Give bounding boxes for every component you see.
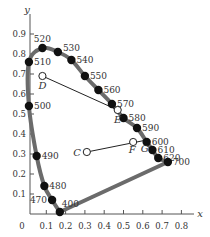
y-tick-label: 0.4 [12, 129, 26, 139]
wavelength-point [25, 58, 33, 66]
x-tick-label: 0.8 [175, 221, 189, 231]
chromaticity-chart: yx00.10.20.30.40.50.60.70.80.90.10.20.30… [0, 0, 210, 237]
wavelength-label: 530 [63, 43, 80, 53]
y-axis-label: y [23, 4, 30, 15]
y-tick-label: 0.8 [12, 49, 26, 59]
point-E [114, 106, 121, 113]
wavelength-point [25, 102, 33, 110]
wavelength-label: 400 [62, 199, 79, 209]
wavelength-label: 500 [34, 101, 51, 111]
wavelength-label: 490 [42, 151, 59, 161]
wavelength-point [81, 72, 89, 80]
wavelength-label: 510 [34, 57, 51, 67]
point-C [83, 148, 90, 155]
x-tick-label: 0.6 [136, 221, 150, 231]
wavelength-point [56, 208, 64, 216]
wavelength-label: 480 [49, 181, 66, 191]
point-label-E: E [113, 114, 122, 125]
wavelength-point [54, 48, 62, 56]
wavelength-label: 470 [30, 195, 47, 205]
wavelength-label: 590 [142, 123, 159, 133]
wavelength-label: 580 [129, 113, 146, 123]
x-axis-label: x [197, 208, 203, 219]
wavelength-label: 520 [34, 34, 51, 44]
y-tick-label: 0.7 [12, 69, 26, 79]
wavelength-point [154, 154, 162, 162]
wavelength-point [108, 100, 116, 108]
x-tick-label: 0.1 [40, 221, 54, 231]
point-label-D: D [37, 80, 46, 91]
wavelength-point [164, 158, 172, 166]
point-label-G: G [141, 143, 149, 154]
x-tick-label: 0.3 [78, 221, 92, 231]
wavelength-point [40, 182, 48, 190]
y-tick-label: 0.2 [12, 169, 26, 179]
wavelength-point [94, 86, 102, 94]
x-tick-label: 0.5 [117, 221, 131, 231]
y-tick-label: 0.5 [12, 109, 26, 119]
y-tick-label: 0.1 [12, 189, 26, 199]
point-D [39, 72, 46, 79]
wavelength-point [148, 146, 156, 154]
x-tick-label: 0.2 [59, 221, 73, 231]
wavelength-label: 700 [173, 157, 190, 167]
y-tick-label: 0.3 [12, 149, 26, 159]
segment-CG [87, 140, 147, 152]
wavelength-label: 560 [103, 85, 120, 95]
point-label-F: F [128, 144, 137, 155]
wavelength-point [38, 44, 46, 52]
point-label-C: C [73, 147, 81, 158]
x-tick-label: 0.4 [97, 221, 111, 231]
wavelength-label: 550 [90, 71, 107, 81]
wavelength-point [48, 196, 56, 204]
x-tick-label: 0.7 [155, 221, 169, 231]
y-tick-label: 0.6 [12, 89, 26, 99]
wavelength-point [133, 124, 141, 132]
wavelength-point [67, 56, 75, 64]
wavelength-point [32, 152, 40, 160]
wavelength-label: 540 [76, 55, 93, 65]
y-tick-label: 0.9 [12, 29, 26, 39]
origin-label: 0 [19, 221, 24, 231]
